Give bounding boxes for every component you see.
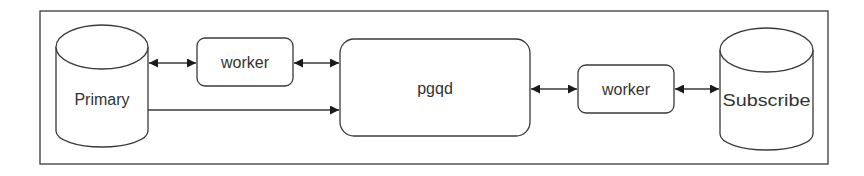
worker-right-node: worker [578,65,674,113]
worker-right-label: worker [601,81,651,98]
primary-database-node: Primary [56,25,148,147]
primary-label: Primary [74,91,129,108]
subscribe-label: Subscribe [723,92,811,109]
worker-left-label: worker [220,54,270,71]
pgqd-label: pgqd [417,80,453,97]
worker-left-node: worker [197,38,293,86]
primary-cylinder-top [56,25,148,69]
subscribe-database-node: Subscribe [720,28,813,150]
pgqd-node: pgqd [340,39,530,136]
diagram-canvas: Primary worker pgqd worker Subscribe [0,0,864,176]
subscribe-cylinder-top [720,28,813,72]
